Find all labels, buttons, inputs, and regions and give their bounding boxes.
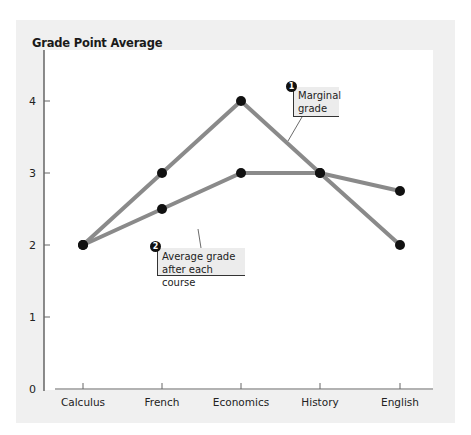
- callout-1-leader: [288, 117, 302, 141]
- y-tick-label: 3: [29, 167, 36, 180]
- y-ticks: 01234: [29, 95, 50, 396]
- x-tick-label: Economics: [213, 396, 269, 408]
- line-chart: 01234 CalculusFrenchEconomicsHistoryEngl…: [0, 0, 471, 435]
- data-point: [395, 240, 405, 250]
- data-point: [157, 168, 167, 178]
- x-tick-label: French: [145, 396, 180, 408]
- callout-1-line1: Marginal: [298, 89, 335, 102]
- callout-2-line2: after each course: [162, 263, 241, 289]
- callout-1-badge: 1: [286, 81, 297, 92]
- data-point: [395, 186, 405, 196]
- data-point: [78, 240, 88, 250]
- callout-marginal-grade: Marginal grade: [293, 87, 339, 117]
- callout-2-badge: 2: [150, 241, 161, 252]
- y-tick-label: 2: [29, 239, 36, 252]
- x-tick-label: English: [381, 396, 419, 408]
- data-point: [236, 96, 246, 106]
- callout-2-line1: Average grade: [162, 250, 241, 263]
- x-tick-label: Calculus: [61, 396, 105, 408]
- series-line-1: [83, 173, 400, 245]
- x-ticks: CalculusFrenchEconomicsHistoryEnglish: [61, 383, 419, 408]
- y-tick-label: 4: [29, 95, 36, 108]
- y-tick-label: 0: [29, 383, 36, 396]
- data-point: [236, 168, 246, 178]
- x-tick-label: History: [301, 396, 338, 408]
- callout-2-leader: [198, 229, 201, 248]
- y-tick-label: 1: [29, 311, 36, 324]
- data-point: [315, 168, 325, 178]
- callout-average-grade: Average grade after each course: [157, 248, 245, 276]
- data-point: [157, 204, 167, 214]
- series-group: [78, 96, 405, 250]
- callout-1-line2: grade: [298, 102, 335, 115]
